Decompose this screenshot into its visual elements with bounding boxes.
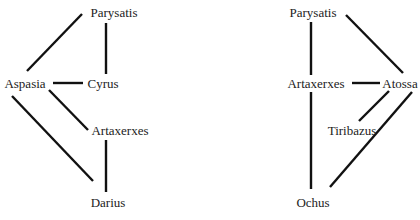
edge-atossa-tiribazus: [359, 91, 389, 121]
node-darius: Darius: [91, 195, 126, 210]
edge-parysatis-aspasia: [27, 14, 82, 71]
node-cyrus: Cyrus: [87, 76, 118, 91]
edge-aspasia-artaxerxes: [49, 90, 88, 130]
node-atossa: Atossa: [382, 76, 417, 91]
node-parysatis-right: Parysatis: [290, 5, 337, 20]
node-aspasia: Aspasia: [4, 76, 45, 91]
edge-parysatis-atossa: [346, 15, 403, 73]
edge-atossa-ochus: [330, 92, 412, 187]
node-artaxerxes-left: Artaxerxes: [91, 123, 148, 138]
node-tiribazus: Tiribazus: [328, 123, 377, 138]
node-parysatis-left: Parysatis: [91, 5, 138, 20]
node-ochus: Ochus: [296, 195, 329, 210]
edge-aspasia-darius: [12, 96, 93, 181]
edge-layer: [0, 0, 420, 220]
node-artaxerxes-right: Artaxerxes: [287, 76, 344, 91]
kinship-diagrams: Parysatis Aspasia Cyrus Artaxerxes Dariu…: [0, 0, 420, 220]
